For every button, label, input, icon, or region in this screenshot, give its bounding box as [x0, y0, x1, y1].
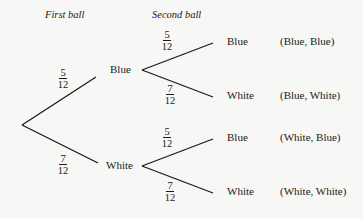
header-second-ball: Second ball	[152, 9, 201, 21]
node-first-blue: Blue	[110, 63, 131, 75]
branch-white-blue	[142, 139, 213, 166]
prob-white-blue: 5 12	[159, 126, 175, 149]
prob-first-blue: 5 12	[55, 67, 71, 90]
prob-blue-white: 7 12	[162, 83, 178, 106]
probability-tree-diagram: First ball Second ball 5 12 7 12 Blue Wh…	[0, 0, 363, 218]
leaf-blue-white: White	[227, 89, 254, 101]
leaf-white-white: White	[227, 185, 254, 197]
outcome-blue-blue: (Blue, Blue)	[280, 35, 334, 47]
leaf-white-blue: Blue	[227, 131, 248, 143]
prob-first-white: 7 12	[55, 153, 71, 176]
node-first-white: White	[106, 159, 133, 171]
prob-blue-blue: 5 12	[159, 29, 175, 52]
branch-blue-blue	[142, 43, 213, 70]
prob-white-white: 7 12	[162, 180, 178, 203]
outcome-white-white: (White, White)	[280, 185, 346, 197]
outcome-blue-white: (Blue, White)	[280, 89, 340, 101]
header-first-ball: First ball	[45, 9, 84, 21]
outcome-white-blue: (White, Blue)	[280, 131, 340, 143]
leaf-blue-blue: Blue	[227, 35, 248, 47]
